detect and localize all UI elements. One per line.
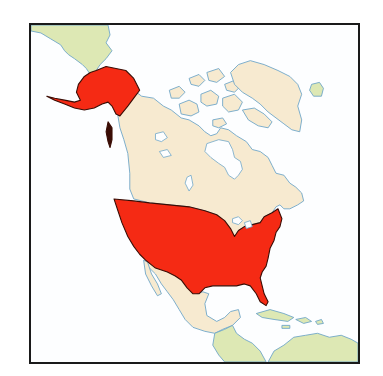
region-central-america [213, 325, 266, 362]
region-south-america [268, 333, 358, 362]
region-alaska-panhandle[interactable] [106, 122, 112, 148]
region-iceland [310, 82, 324, 96]
north-america-map [31, 25, 358, 362]
caribbean-islands [256, 310, 323, 329]
region-alaska[interactable] [47, 67, 140, 116]
map-frame: United States highlighted on map of Nort… [29, 23, 360, 364]
region-russia [31, 25, 112, 74]
